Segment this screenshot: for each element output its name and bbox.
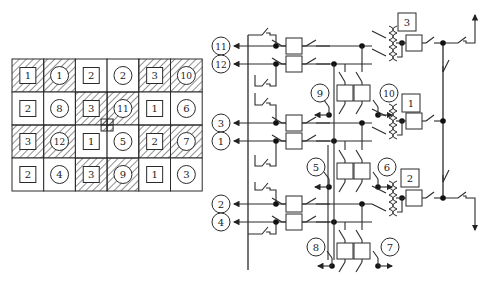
disconnector-icon <box>426 192 434 198</box>
grid-cell: 2 <box>107 59 139 92</box>
disconnector-icon <box>373 251 378 258</box>
junction-dot <box>440 118 446 124</box>
grid-cell-label: 5 <box>120 136 126 147</box>
wire <box>372 204 386 211</box>
breaker-icon <box>286 196 302 212</box>
wire <box>372 31 386 38</box>
junction-dot <box>440 40 446 46</box>
output-arrow-up <box>463 15 475 43</box>
feeder-label: 12 <box>215 60 226 70</box>
disconnector-icon <box>356 104 362 114</box>
grid-cell-label: 2 <box>88 70 94 81</box>
branch-feeder-label: 10 <box>383 89 395 99</box>
grid-cell: 9 <box>107 158 139 191</box>
breaker-icon <box>354 243 370 259</box>
grid-cell-label: 1 <box>25 70 31 81</box>
grid-cell-label: 1 <box>151 169 157 180</box>
grid-cell-label: 9 <box>120 169 126 180</box>
breaker-icon <box>337 163 353 179</box>
grid-cell-label: 3 <box>151 70 157 81</box>
grid-cell: 3 <box>171 158 203 191</box>
grid-cell-label: 1 <box>151 103 157 114</box>
disconnector-icon <box>306 40 316 46</box>
branch-feeder-label: 6 <box>384 162 390 173</box>
distribution-diagram: 112231028311163121527243913 111231249105… <box>0 0 489 284</box>
grid-cell-label: 3 <box>88 169 94 180</box>
breaker-icon <box>286 214 302 230</box>
transformer-label: 3 <box>404 17 410 28</box>
grid-cell-label: 3 <box>88 103 94 114</box>
disconnector-icon <box>356 230 362 240</box>
single-line-schematic: 111231249105687312 <box>212 13 475 272</box>
disconnector-icon <box>339 230 345 240</box>
disconnector-icon <box>339 72 345 82</box>
grid-cell-label: 3 <box>25 136 31 147</box>
disconnector-icon <box>339 104 345 114</box>
transformer-label: 2 <box>407 173 413 184</box>
grid-cell-label: 2 <box>120 70 126 81</box>
disconnector-icon <box>324 100 329 107</box>
wire <box>372 49 386 56</box>
output-arrow-down <box>463 196 475 230</box>
disconnector-icon <box>426 37 434 43</box>
disconnector-icon <box>373 172 378 179</box>
grid-cell: 8 <box>44 92 76 125</box>
grid-cell: 6 <box>171 92 203 125</box>
branch-feeder-label: 8 <box>313 242 319 253</box>
disconnector-icon <box>306 58 316 64</box>
grid-cell: 3 <box>139 59 171 92</box>
disconnector-icon <box>339 182 345 192</box>
junction-dot <box>440 195 446 201</box>
disconnector-icon <box>356 182 362 192</box>
bus-tie-switches <box>248 28 276 234</box>
grid-cell: 2 <box>139 125 171 158</box>
feeder-label: 2 <box>218 199 224 210</box>
feeder-label: 11 <box>215 42 226 52</box>
grid-cell: 12 <box>44 125 76 158</box>
branch-feeder-label: 9 <box>317 88 323 99</box>
grid-cell-label: 10 <box>181 71 193 81</box>
breaker-icon <box>354 85 370 101</box>
grid-cell-label: 4 <box>56 169 62 180</box>
breaker-icon <box>354 163 370 179</box>
transformer-breaker-icon <box>406 190 422 206</box>
grid-cell: 2 <box>75 59 107 92</box>
grid-cell-label: 6 <box>183 103 189 114</box>
breaker-icon <box>286 56 302 72</box>
feeder-label: 1 <box>218 136 224 147</box>
grid-cell: 7 <box>171 125 203 158</box>
disconnector-icon <box>306 135 316 141</box>
disconnector-icon <box>306 198 316 204</box>
transformer-label: 1 <box>408 98 414 109</box>
grid-cell: 2 <box>12 92 44 125</box>
disconnector-icon <box>356 72 362 82</box>
disconnector-icon <box>306 216 316 222</box>
grid-cell-label: 3 <box>183 169 189 180</box>
grid-cell: 3 <box>12 125 44 158</box>
grid-cell: 1 <box>139 158 171 191</box>
grid-cell-label: 2 <box>151 136 157 147</box>
grid-cell-label: 2 <box>25 103 31 114</box>
grid-cell: 4 <box>44 158 76 191</box>
grid-cell: 10 <box>171 59 203 92</box>
grid-cell: 3 <box>75 158 107 191</box>
disconnector-icon <box>306 117 316 123</box>
disconnector-icon <box>426 115 434 121</box>
grid-cell: 1 <box>139 92 171 125</box>
grid-cell-label: 12 <box>54 137 65 147</box>
feeder-label: 4 <box>218 217 224 228</box>
grid-cell: 1 <box>12 59 44 92</box>
transformer-breaker-icon <box>406 113 422 129</box>
grid-cell: 1 <box>44 59 76 92</box>
substation-layout-grid: 112231028311163121527243913 <box>12 59 202 191</box>
disconnector-icon <box>356 262 362 272</box>
branch-feeder-label: 5 <box>313 162 319 173</box>
disconnector-icon <box>356 150 362 160</box>
grid-cell-label: 1 <box>88 136 94 147</box>
breaker-icon <box>286 115 302 131</box>
grid-cell-label: 1 <box>56 70 62 81</box>
breaker-icon <box>337 85 353 101</box>
disconnector-icon <box>339 150 345 160</box>
feeder-label: 3 <box>218 118 224 129</box>
disconnector-icon <box>339 262 345 272</box>
